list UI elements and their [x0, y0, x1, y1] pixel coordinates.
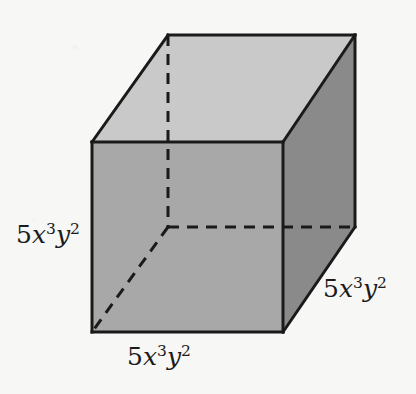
width-label-base-y: y [167, 342, 181, 371]
width-label: 5x3y2 [127, 344, 191, 369]
height-label-base-y: y [56, 220, 70, 249]
depth-label-coefficient: 5 [323, 274, 339, 303]
height-label-base-x: x [32, 220, 46, 249]
height-label-exponent-y: 2 [70, 220, 80, 238]
depth-label: 5x3y2 [323, 276, 387, 301]
cube-diagram [0, 0, 416, 394]
depth-label-base-x: x [339, 274, 353, 303]
figure-canvas: 5x3y2 5x3y2 5x3y2 [0, 0, 416, 394]
height-label-exponent-x: 3 [46, 220, 56, 238]
front-face [92, 142, 283, 332]
width-label-exponent-x: 3 [157, 342, 167, 360]
depth-label-base-y: y [363, 274, 377, 303]
width-label-exponent-y: 2 [181, 342, 191, 360]
width-label-coefficient: 5 [127, 342, 143, 371]
height-label-coefficient: 5 [16, 220, 32, 249]
height-label: 5x3y2 [16, 222, 80, 247]
width-label-base-x: x [143, 342, 157, 371]
depth-label-exponent-y: 2 [377, 274, 387, 292]
depth-label-exponent-x: 3 [353, 274, 363, 292]
